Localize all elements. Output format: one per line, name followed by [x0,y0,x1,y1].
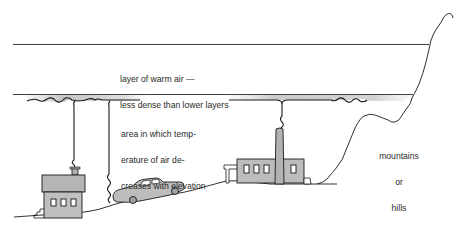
cooling-area-label-line-3: creases with elevation [121,182,206,191]
terrain-label-line-3: hills [376,204,422,213]
terrain-label-line-2: or [376,178,422,187]
cooling-area-label: area in which temp- erature of air de- c… [121,113,206,208]
warm-layer-label-line-1: layer of warm air — [120,75,228,84]
cooling-area-label-line-1: area in which temp- [121,130,206,139]
terrain-label-line-1: mountains [376,152,422,161]
warm-layer-label-line-2: less dense than lower layers [120,101,228,110]
house [34,167,85,218]
smog-band-right [228,95,412,103]
inversion-diagram: layer of warm air — less dense than lowe… [0,0,459,226]
terrain-label: mountains or hills [376,135,422,226]
cooling-area-label-line-2: erature of air de- [121,156,206,165]
factory [224,128,311,184]
smoke-plume-car [108,101,111,203]
